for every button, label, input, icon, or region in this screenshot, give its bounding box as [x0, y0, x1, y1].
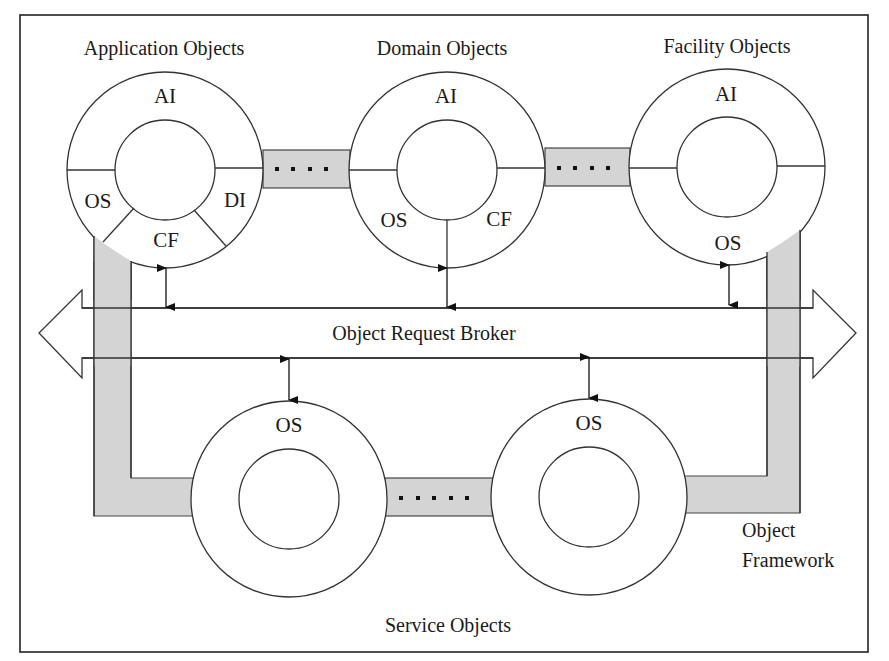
domain-os-label: OS [381, 208, 408, 232]
service-left-core [239, 449, 339, 549]
domain-cf-label: CF [486, 207, 512, 231]
domain-core [397, 120, 497, 220]
application-cf-label: CF [153, 228, 179, 252]
service-right-core [539, 447, 639, 547]
facility-os-label: OS [715, 231, 742, 255]
object-framework-label-line1: Object [742, 519, 796, 542]
corba-architecture-diagram: AI OS DI CF Application Objects AI OS CF… [0, 0, 889, 661]
application-os-label: OS [85, 189, 112, 213]
domain-objects: AI OS CF [349, 72, 545, 268]
domain-ai-label: AI [435, 84, 457, 108]
service-right-os-label: OS [576, 411, 603, 435]
application-core [115, 120, 215, 220]
facility-objects-title: Facility Objects [663, 35, 790, 58]
application-objects-title: Application Objects [84, 37, 245, 60]
service-object-right: OS [491, 399, 687, 595]
facility-core [677, 117, 777, 217]
service-object-left: OS [191, 401, 387, 597]
service-objects-title: Service Objects [385, 614, 511, 637]
application-ai-label: AI [154, 84, 176, 108]
object-request-broker-label: Object Request Broker [332, 322, 516, 345]
domain-objects-title: Domain Objects [377, 37, 508, 60]
facility-ai-label: AI [715, 82, 737, 106]
object-framework-label-line2: Framework [742, 549, 834, 571]
service-left-os-label: OS [276, 413, 303, 437]
application-di-label: DI [224, 188, 246, 212]
